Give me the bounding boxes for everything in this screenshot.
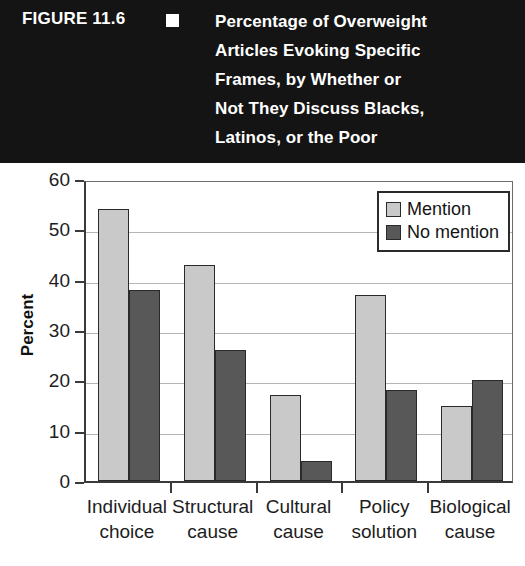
figure-number-label: FIGURE 11.6 <box>22 9 125 29</box>
bar-mention <box>270 395 301 481</box>
figure-title-line: Latinos, or the Poor <box>215 123 515 152</box>
bar-mention <box>184 265 215 481</box>
x-axis-category-line: cause <box>250 519 348 544</box>
y-axis-tick-label: 30 <box>28 320 70 342</box>
x-axis-tick-mark <box>427 483 429 493</box>
x-axis-tick-mark <box>341 483 343 493</box>
bar-mention <box>98 209 129 481</box>
y-axis-tick-mark <box>75 381 84 383</box>
x-axis-category-line: Policy <box>335 494 433 519</box>
x-axis-tick-mark <box>256 483 258 493</box>
x-axis-category-label: Individualchoice <box>78 494 176 544</box>
filled-square-icon <box>166 14 179 27</box>
legend-item-no-mention: No mention <box>386 221 499 244</box>
y-axis-tick-mark <box>75 432 84 434</box>
chart-legend: Mention No mention <box>377 191 510 252</box>
y-axis-tick-mark <box>75 230 84 232</box>
y-axis-tick-label: 40 <box>28 270 70 292</box>
bar-no-mention <box>386 390 417 481</box>
bar-no-mention <box>129 290 160 481</box>
x-axis-category-line: Biological <box>421 494 519 519</box>
x-axis-category-line: cause <box>164 519 262 544</box>
figure-title-line: Articles Evoking Specific <box>215 36 515 65</box>
bar-mention <box>441 406 472 482</box>
y-axis-tick-label: 60 <box>28 169 70 191</box>
y-axis-tick-mark <box>75 180 84 182</box>
x-axis-category-label: Structuralcause <box>164 494 262 544</box>
y-axis-tick-label: 20 <box>28 370 70 392</box>
bar-no-mention <box>215 350 246 481</box>
x-axis-category-line: Cultural <box>250 494 348 519</box>
figure-title: Percentage of Overweight Articles Evokin… <box>215 7 515 152</box>
y-axis-tick-mark <box>75 281 84 283</box>
figure-title-line: Frames, by Whether or <box>215 65 515 94</box>
legend-label: No mention <box>407 222 499 243</box>
x-axis-category-label: Biologicalcause <box>421 494 519 544</box>
y-axis-tick-mark <box>75 482 84 484</box>
x-axis-tick-mark <box>170 483 172 493</box>
figure-title-line: Percentage of Overweight <box>215 7 515 36</box>
bar-no-mention <box>472 380 503 481</box>
bar-no-mention <box>301 461 332 481</box>
legend-item-mention: Mention <box>386 198 499 221</box>
x-axis-category-label: Culturalcause <box>250 494 348 544</box>
y-axis-tick-label: 10 <box>28 421 70 443</box>
figure-title-line: Not They Discuss Blacks, <box>215 94 515 123</box>
x-axis-category-line: Individual <box>78 494 176 519</box>
y-axis-tick-label: 50 <box>28 219 70 241</box>
figure-header-band: FIGURE 11.6 Percentage of Overweight Art… <box>0 0 525 163</box>
y-axis-tick-label: 0 <box>28 471 70 493</box>
gridline <box>86 283 512 284</box>
x-axis-category-line: choice <box>78 519 176 544</box>
bar-mention <box>355 295 386 481</box>
x-axis-category-line: cause <box>421 519 519 544</box>
y-axis-tick-mark <box>75 331 84 333</box>
x-axis-category-label: Policysolution <box>335 494 433 544</box>
y-axis-tick-labels: 0102030405060 <box>0 163 70 566</box>
legend-swatch-icon <box>386 225 401 240</box>
bar-chart: Percent 0102030405060 Mention No mention… <box>0 163 525 566</box>
legend-swatch-icon <box>386 202 401 217</box>
x-axis-category-line: solution <box>335 519 433 544</box>
legend-label: Mention <box>407 199 471 220</box>
x-axis-category-line: Structural <box>164 494 262 519</box>
